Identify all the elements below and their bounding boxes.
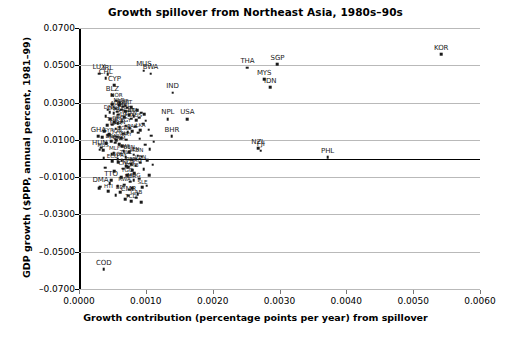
x-tick-label: 0.0010 — [111, 296, 181, 306]
data-point — [269, 86, 272, 89]
data-point — [144, 143, 147, 146]
data-point — [149, 148, 152, 151]
y-tick-label: –0.0500 — [3, 247, 75, 257]
data-point-label: MDG — [127, 172, 140, 178]
data-point-label: NPL — [161, 108, 174, 116]
data-point-label: COD — [96, 259, 112, 267]
data-point — [102, 268, 105, 271]
data-point — [153, 140, 156, 143]
chart-title: Growth spillover from Northeast Asia, 19… — [0, 6, 511, 18]
y-tick-label: –0.0700 — [3, 284, 75, 294]
data-point-label: IND — [166, 82, 178, 90]
data-point — [246, 66, 249, 69]
y-tick-label: –0.0100 — [3, 172, 75, 182]
data-point-label: BHR — [165, 126, 180, 134]
data-point-label: KEN — [132, 147, 143, 153]
data-point — [440, 53, 443, 56]
x-tick-mark — [79, 290, 80, 294]
data-point-label: AUS — [131, 112, 142, 118]
x-tick-mark — [213, 290, 214, 294]
data-point — [102, 149, 105, 152]
data-point-label: BWA — [143, 63, 159, 71]
x-axis-title: Growth contribution (percentage points p… — [0, 312, 511, 323]
data-point-label: FJI — [257, 140, 265, 148]
data-point — [151, 164, 154, 167]
data-point — [114, 194, 117, 197]
data-point — [114, 141, 117, 144]
data-point — [99, 186, 102, 189]
y-tick-label: –0.0300 — [3, 209, 75, 219]
data-point — [111, 160, 114, 163]
data-point — [104, 77, 107, 80]
gridline-horizontal — [79, 28, 480, 29]
data-point-label: KOR — [434, 44, 448, 52]
gridline-horizontal — [79, 252, 480, 253]
data-point-label: BDI — [116, 184, 126, 190]
data-point-label: VNM — [113, 135, 126, 141]
x-tick-mark — [413, 290, 414, 294]
data-point-label: ECU — [107, 153, 118, 159]
data-point — [108, 111, 111, 114]
data-point — [98, 148, 101, 151]
data-point — [107, 190, 110, 193]
y-axis-tick-labels: 0.07000.05000.03000.0100–0.0100–0.0300–0… — [0, 28, 75, 289]
data-point-label: MYS — [257, 69, 271, 77]
data-point — [97, 135, 100, 138]
data-point — [150, 134, 153, 137]
data-point — [104, 167, 107, 170]
data-point-label: IDN — [264, 77, 276, 85]
scatter-chart-figure: Growth spillover from Northeast Asia, 19… — [0, 0, 511, 338]
data-point — [276, 63, 279, 66]
data-point — [130, 200, 133, 203]
x-tick-label: 0.0000 — [44, 296, 114, 306]
data-point-label: SGP — [271, 54, 285, 62]
data-point-label: SLE — [138, 179, 148, 185]
data-point — [140, 201, 143, 204]
plot-area: KORSGPTHAMYSIDNINDNPLUSABHRNZLFJIPHLMUSB… — [79, 28, 480, 289]
x-tick-mark — [280, 290, 281, 294]
y-tick-label: 0.0500 — [3, 60, 75, 70]
data-point — [119, 191, 122, 194]
data-point — [143, 168, 146, 171]
x-tick-label: 0.0030 — [245, 296, 315, 306]
x-tick-mark — [480, 290, 481, 294]
y-tick-label: 0.0300 — [3, 98, 75, 108]
data-point — [147, 128, 150, 131]
x-tick-label: 0.0060 — [445, 296, 511, 306]
y-tick-label: 0.0100 — [3, 135, 75, 145]
data-point — [139, 137, 142, 140]
data-point-label: TCD — [126, 193, 137, 199]
data-point — [110, 179, 113, 182]
data-point — [148, 174, 151, 177]
data-point — [133, 179, 136, 182]
data-point — [137, 131, 140, 134]
y-tick-label: 0.0700 — [3, 23, 75, 33]
data-point-label: HTI — [104, 183, 113, 189]
data-point — [149, 72, 152, 75]
gridline-horizontal — [79, 103, 480, 104]
data-point — [167, 118, 170, 121]
x-tick-label: 0.0050 — [378, 296, 448, 306]
data-point-label: CYP — [108, 75, 121, 83]
data-point — [326, 156, 329, 159]
data-point — [171, 135, 174, 138]
x-tick-label: 0.0040 — [311, 296, 381, 306]
data-point — [143, 113, 146, 116]
data-point-label: RUS — [97, 142, 108, 148]
data-point — [146, 159, 149, 162]
x-tick-mark — [146, 290, 147, 294]
gridline-horizontal — [79, 214, 480, 215]
data-point-label: USA — [180, 108, 194, 116]
data-point — [171, 92, 174, 95]
data-point — [186, 118, 189, 121]
data-point-label: PHL — [321, 147, 334, 155]
data-point — [259, 149, 262, 152]
data-point — [139, 129, 142, 132]
data-point-label: THA — [240, 57, 254, 65]
x-tick-mark — [346, 290, 347, 294]
x-tick-label: 0.0020 — [178, 296, 248, 306]
data-point — [102, 157, 105, 160]
